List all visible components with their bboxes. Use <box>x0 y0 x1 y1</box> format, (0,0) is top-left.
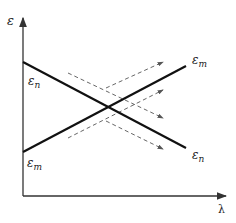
epsilon-m-line <box>23 66 186 152</box>
dashed-arrow-upper-up <box>106 62 163 88</box>
epsilon-n-start-label: εn <box>28 74 40 90</box>
dashed-arrow-lower-down <box>106 121 163 149</box>
diagram-canvas: ε λ εn εn εm εm <box>0 0 236 223</box>
epsilon-n-end-label: εn <box>192 148 204 164</box>
x-axis-label: λ <box>218 203 225 216</box>
dashed-arrow-lower-up <box>68 90 163 138</box>
epsilon-m-start-label: εm <box>27 156 42 172</box>
epsilon-m-end-label: εm <box>192 53 207 69</box>
y-axis-label: ε <box>7 13 14 28</box>
epsilon-n-line <box>23 62 186 148</box>
